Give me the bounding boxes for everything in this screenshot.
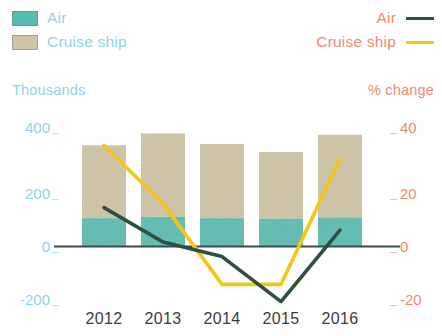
- bar-segment-cruise-ship-2014: [200, 144, 244, 218]
- x-label-2015: 2015: [248, 310, 314, 328]
- bar-group: [82, 133, 362, 246]
- x-label-2016: 2016: [307, 310, 373, 328]
- plot-area: 400 200 0 -200 40 20 0 -20: [0, 0, 442, 336]
- bar-segment-cruise-ship-2016: [318, 135, 362, 218]
- x-label-2012: 2012: [71, 310, 137, 328]
- bar-segment-air-2015: [259, 219, 303, 246]
- bar-segment-cruise-ship-2015: [259, 152, 303, 219]
- bar-segment-air-2014: [200, 218, 244, 246]
- chart-svg: [0, 0, 442, 336]
- bar-segment-air-2012: [82, 218, 126, 246]
- x-label-2014: 2014: [189, 310, 255, 328]
- x-label-2013: 2013: [130, 310, 196, 328]
- chart-container: Air Cruise ship Air Cruise ship Thousand…: [0, 0, 442, 336]
